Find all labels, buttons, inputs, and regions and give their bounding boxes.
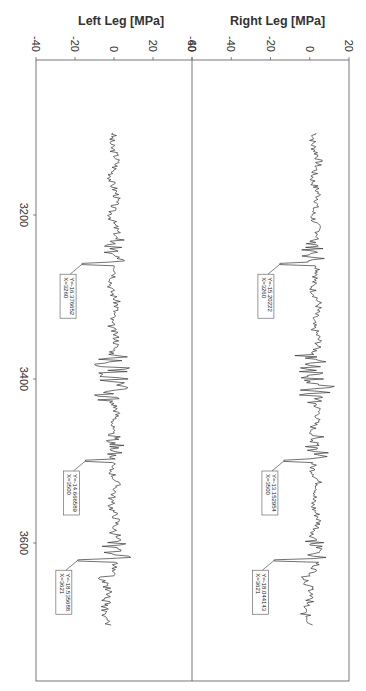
y-tick-label: -40: [225, 36, 237, 52]
x-tick-label: 3600: [18, 531, 30, 555]
left-y-axis: -40-2002040: [30, 36, 198, 60]
annotation-x: X=3500: [66, 474, 72, 496]
annotation-x: X=3500: [265, 474, 271, 496]
annotation-x: X=3260: [63, 277, 69, 299]
annotation-x: X=3621: [255, 573, 261, 595]
right-y-axis: -60-40-20020: [186, 36, 355, 60]
plot-frame: [36, 60, 349, 681]
chart-svg: -40-2002040 -60-40-20020 320034003600 Y=…: [0, 0, 366, 691]
annotation-x: X=3621: [59, 573, 65, 595]
y-tick-label: 20: [147, 40, 159, 52]
y-tick-label: 20: [343, 40, 355, 52]
left-leg-series: [78, 133, 131, 625]
y-tick-label: -60: [186, 36, 198, 52]
right-leg-series: [274, 133, 334, 625]
x-axis: 320034003600: [18, 203, 36, 555]
y-tick-label: -20: [69, 36, 81, 52]
y-tick-label: 0: [108, 46, 120, 52]
annotation-x: X=3260: [261, 277, 267, 299]
x-tick-label: 3400: [18, 367, 30, 391]
x-tick-label: 3200: [18, 203, 30, 227]
y-tick-label: -40: [30, 36, 42, 52]
y-tick-label: 0: [304, 46, 316, 52]
y-tick-label: -20: [265, 36, 277, 52]
